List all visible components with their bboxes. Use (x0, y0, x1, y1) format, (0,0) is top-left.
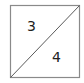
split-square-diagram: 3 4 (0, 0, 84, 83)
split-square-shape (0, 0, 84, 83)
lower-triangle-label: 4 (52, 50, 61, 64)
upper-triangle-label: 3 (27, 19, 36, 33)
